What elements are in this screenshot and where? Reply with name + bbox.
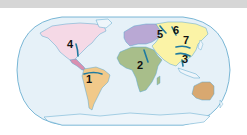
world-map-svg — [0, 0, 247, 135]
river-label-6: 6 — [173, 25, 179, 36]
world-map — [0, 0, 247, 135]
river-label-5: 5 — [157, 29, 163, 40]
river-label-2: 2 — [137, 60, 143, 71]
river-label-3: 3 — [182, 54, 188, 65]
river-label-7: 7 — [183, 35, 189, 46]
river-label-4: 4 — [67, 39, 73, 50]
antarctica — [44, 113, 210, 125]
river-label-1: 1 — [86, 74, 92, 85]
